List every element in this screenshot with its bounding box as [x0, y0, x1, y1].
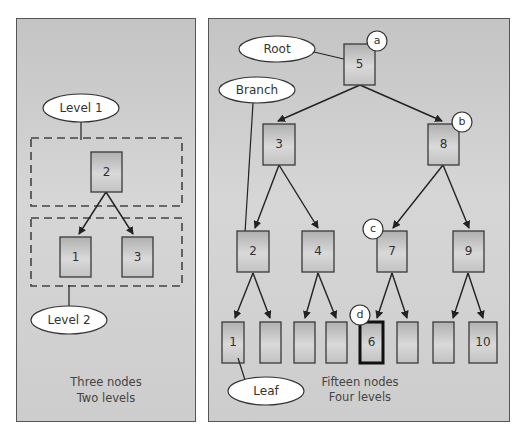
- branch-label: Branch: [219, 77, 295, 103]
- root-pointer: [314, 52, 348, 60]
- tree-node-2: 2: [91, 152, 122, 192]
- edge-8-to-7: [393, 165, 443, 228]
- edge-3-to-2: [255, 165, 279, 228]
- tree-node-8: 8: [428, 124, 459, 165]
- svg-text:10: 10: [475, 335, 490, 349]
- edge-5-to-8: [360, 85, 442, 121]
- badge-a: a: [367, 31, 387, 51]
- svg-text:6: 6: [368, 335, 376, 349]
- tree-node-4: 4: [302, 231, 334, 272]
- svg-text:Branch: Branch: [236, 83, 278, 97]
- tree-node-1: 1: [60, 237, 91, 277]
- tree-node-1: 1: [222, 322, 244, 363]
- svg-text:d: d: [357, 308, 364, 321]
- branch-pointer: [245, 103, 253, 233]
- tree-node-7: 7: [377, 231, 407, 272]
- tree-node-2: 2: [237, 231, 269, 272]
- tree-node-10: 10: [469, 322, 497, 363]
- level-2-dashed-box: [31, 218, 182, 286]
- edge-8-to-9: [443, 165, 469, 228]
- level-2-group: [31, 218, 182, 286]
- tree-node-9: 9: [453, 231, 484, 272]
- svg-text:7: 7: [388, 244, 396, 258]
- edge-3-to-4: [279, 165, 318, 228]
- root-label: Root: [239, 36, 315, 62]
- svg-text:c: c: [370, 222, 376, 235]
- level-1-label: Level 1: [43, 94, 119, 122]
- edge-2-to-3: [106, 192, 133, 234]
- svg-text:5: 5: [356, 57, 364, 71]
- left-caption-line-2: Two levels: [76, 391, 136, 405]
- svg-text:Leaf: Leaf: [253, 384, 279, 398]
- svg-text:8: 8: [440, 137, 448, 151]
- tree-node-5: 5: [344, 44, 375, 85]
- badge-d: d: [350, 305, 370, 325]
- tree-node-3: 3: [263, 124, 295, 165]
- svg-text:a: a: [374, 34, 381, 47]
- edge-2-to-1: [79, 192, 106, 234]
- svg-text:Level 2: Level 2: [47, 313, 90, 327]
- edge-7-to-empty: [392, 273, 407, 318]
- svg-text:1: 1: [229, 335, 237, 349]
- svg-text:1: 1: [72, 250, 80, 264]
- edge-2-to-empty: [253, 273, 270, 318]
- tree-node-empty: [260, 322, 281, 363]
- svg-text:2: 2: [249, 244, 257, 258]
- svg-text:Root: Root: [263, 42, 290, 56]
- svg-text:b: b: [459, 115, 466, 128]
- tree-node-3: 3: [122, 237, 153, 277]
- badge-c: c: [363, 219, 383, 239]
- edge-9-to-10: [468, 273, 483, 318]
- svg-text:Level 1: Level 1: [59, 101, 102, 115]
- left-caption-line-1: Three nodes: [69, 375, 141, 389]
- right-caption-line-1: Fifteen nodes: [321, 375, 398, 389]
- tree-node-empty: [294, 322, 315, 363]
- edge-7-to-6: [377, 273, 392, 318]
- edge-4-to-empty-a: [305, 273, 318, 318]
- svg-text:2: 2: [103, 165, 111, 179]
- svg-text:3: 3: [134, 250, 142, 264]
- edge-2-to-1: [235, 273, 253, 318]
- leaf-label: Leaf: [228, 377, 304, 405]
- badge-b: b: [452, 112, 472, 132]
- tree-node-empty: [397, 322, 418, 363]
- svg-text:9: 9: [465, 244, 473, 258]
- tree-node-empty: [433, 322, 454, 363]
- tree-node-empty: [326, 322, 347, 363]
- level-2-label: Level 2: [31, 306, 107, 334]
- edge-4-to-empty-b: [318, 273, 336, 318]
- svg-text:4: 4: [314, 244, 322, 258]
- tree-diagram: Level 1 2 1 3 Level 2 Three nodes Two le…: [0, 0, 520, 434]
- tree-node-6-highlighted: 6: [360, 322, 383, 363]
- svg-text:3: 3: [275, 137, 283, 151]
- right-caption-line-2: Four levels: [329, 390, 391, 404]
- edge-9-to-empty: [453, 273, 468, 318]
